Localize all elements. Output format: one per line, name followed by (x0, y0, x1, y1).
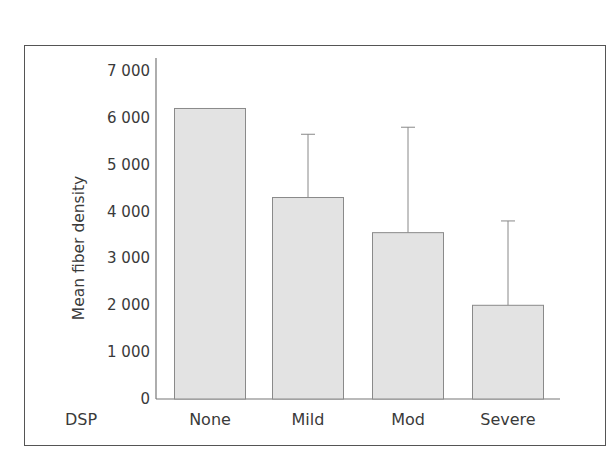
y-tick-label: 4 000 (107, 203, 150, 221)
y-tick-label: 5 000 (107, 156, 150, 174)
bar-none (175, 108, 246, 399)
group-label: DSP (65, 410, 97, 429)
bars (175, 108, 544, 399)
bar-chart: 01 0002 0003 0004 0005 0006 0007 000 Non… (0, 0, 614, 462)
y-axis-ticks: 01 0002 0003 0004 0005 0006 0007 000 (107, 62, 150, 408)
category-label: Mild (292, 410, 325, 429)
y-tick-label: 3 000 (107, 249, 150, 267)
bar-severe (473, 305, 544, 399)
bar-mild (273, 198, 344, 399)
y-tick-label: 6 000 (107, 109, 150, 127)
y-tick-label: 0 (140, 390, 150, 408)
bar-mod (373, 233, 444, 399)
category-label: Mod (391, 410, 425, 429)
y-tick-label: 7 000 (107, 62, 150, 80)
category-label: Severe (480, 410, 535, 429)
category-label: None (189, 410, 231, 429)
y-tick-label: 1 000 (107, 343, 150, 361)
y-axis-title: Mean fiber density (70, 176, 88, 320)
y-tick-label: 2 000 (107, 296, 150, 314)
category-labels: NoneMildModSevere (189, 410, 536, 429)
